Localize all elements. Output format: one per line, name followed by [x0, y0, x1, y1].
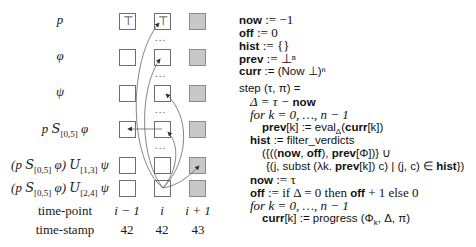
expr: [k] := eval: [286, 121, 336, 133]
expr: ),: [321, 147, 331, 159]
hist-assign: hist := filter_verdicts: [250, 134, 355, 147]
expr: [k]): [367, 121, 383, 133]
expr: := ⊥ⁿ: [263, 51, 296, 66]
hist-line-3: {(j, subst (λk. prev[k]) c) | (j, c) ∈ h…: [266, 160, 464, 173]
for-loop-2: for k = 0, …, n − 1: [250, 199, 349, 213]
time-stamp-label: time-stamp: [30, 222, 100, 238]
time-stamp-next: 43: [183, 222, 213, 238]
expr: [Φ])} ∪: [356, 147, 391, 159]
expr: for k = 0, …, n − 1: [250, 198, 349, 213]
kw: off: [350, 187, 365, 199]
expr: [k] := progress (Φ: [284, 212, 373, 224]
time-point-label: time-point: [30, 203, 100, 219]
kw: curr: [345, 121, 367, 133]
expr: step (τ, π) =: [239, 82, 300, 94]
time-stamp-prev: 42: [112, 222, 142, 238]
time-point-next: i + 1: [183, 203, 213, 219]
time-stamp-curr: 42: [147, 222, 177, 238]
expr: {(j, subst (λk.: [266, 160, 335, 172]
curr-assign: curr[k] := progress (Φk, Δ, π): [262, 212, 410, 229]
expr: ({((: [262, 147, 277, 159]
kw: off: [307, 147, 322, 159]
kw: curr: [239, 65, 261, 77]
expr: [k]) c) | (j, c) ∈: [359, 160, 436, 172]
expr: }): [457, 160, 465, 172]
hist-line-2: ({((now, off), prev[Φ])} ∪: [262, 147, 391, 160]
time-point-curr: i: [147, 203, 177, 219]
kw: hist: [239, 40, 259, 52]
kw: curr: [262, 212, 284, 224]
init-prev: prev := ⊥ⁿ: [239, 52, 296, 66]
kw: off: [239, 27, 254, 39]
kw: now: [277, 147, 300, 159]
for-loop-1: for k = 0, …, n − 1: [250, 108, 349, 122]
expr: for k = 0, …, n − 1: [250, 107, 349, 122]
expr: + 1 else 0: [365, 185, 419, 200]
time-point-prev: i − 1: [112, 203, 142, 219]
init-curr: curr := (Now ⊥)ⁿ: [239, 65, 326, 78]
expr: := filter_verdicts: [270, 134, 354, 146]
kw: hist: [250, 134, 270, 146]
kw: hist: [436, 160, 456, 172]
kw: prev: [239, 53, 263, 65]
expr: := (Now ⊥)ⁿ: [261, 65, 325, 77]
kw: prev: [262, 121, 286, 133]
expr: , Δ, π): [378, 212, 410, 224]
kw: prev: [332, 147, 356, 159]
kw: prev: [335, 160, 359, 172]
